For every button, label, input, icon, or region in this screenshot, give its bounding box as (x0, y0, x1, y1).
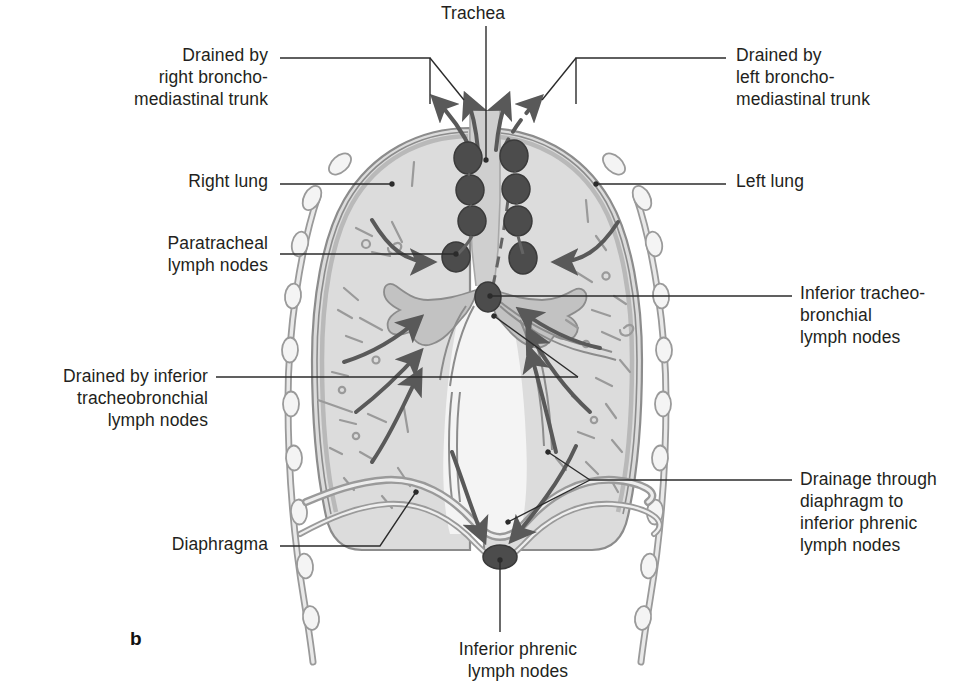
label-drained-by-right-bronchomediastinal-trunk: Drained by right broncho- mediastinal tr… (20, 44, 268, 110)
lymph-node-left-paratracheal-3 (504, 206, 532, 236)
label-left-lung: Left lung (736, 170, 916, 192)
lymph-node-inferior-tracheobronchial (475, 282, 501, 312)
lymph-node-right-paratracheal-3 (458, 206, 486, 236)
label-drained-by-left-bronchomediastinal-trunk: Drained by left broncho- mediastinal tru… (736, 44, 954, 110)
label-trachea: Trachea (408, 2, 538, 24)
lymph-node-right-paratracheal-2 (456, 175, 484, 205)
lymph-node-left-paratracheal-1 (500, 140, 528, 172)
label-drained-by-inferior-tracheobronchial-lymph-nodes: Drained by inferior tracheobronchial lym… (0, 365, 208, 431)
lymph-node-left-paratracheal-2 (502, 174, 530, 204)
lymph-node-right-paratracheal-1 (454, 142, 482, 174)
label-paratracheal-lymph-nodes: Paratracheal lymph nodes (40, 232, 268, 276)
label-inferior-phrenic-lymph-nodes: Inferior phrenic lymph nodes (418, 638, 618, 682)
panel-letter: b (130, 628, 142, 650)
lymph-node-left-paratracheal-4 (509, 242, 537, 274)
label-diaphragma: Diaphragma (50, 533, 268, 555)
label-inferior-tracheobronchial-lymph-nodes: Inferior tracheo- bronchial lymph nodes (800, 282, 954, 348)
label-right-lung: Right lung (60, 170, 268, 192)
label-drainage-through-diaphragm: Drainage through diaphragm to inferior p… (800, 468, 954, 556)
